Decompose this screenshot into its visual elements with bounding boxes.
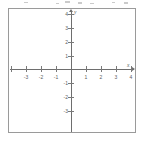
y-tick-label: -2	[60, 94, 68, 100]
y-tick-label: -1	[60, 80, 68, 86]
x-tick-label: 1	[80, 74, 92, 80]
y-tick-label: 3	[60, 25, 68, 31]
x-tick-label: -3	[20, 74, 32, 80]
y-axis-arrow-icon	[69, 9, 73, 12]
y-tick-mark	[68, 56, 74, 57]
y-tick-label: -3	[60, 108, 68, 114]
x-tick-label: 4	[125, 74, 137, 80]
y-axis-line	[71, 12, 72, 132]
x-tick-label: -2	[35, 74, 47, 80]
x-tick-mark	[101, 66, 102, 72]
x-tick-mark	[116, 66, 117, 72]
coordinate-plane-screenshot: -3 -2 -1 1 2 3 4 4 3 2 1 -1 -2 -3 y x	[0, 0, 145, 144]
x-tick-label: 2	[95, 74, 107, 80]
x-tick-label: 3	[110, 74, 122, 80]
x-tick-mark	[11, 66, 12, 72]
y-tick-mark	[68, 28, 74, 29]
y-tick-label: 1	[60, 53, 68, 59]
x-tick-mark	[56, 66, 57, 72]
x-axis-arrow-icon	[132, 67, 135, 71]
x-axis-label: x	[127, 62, 129, 68]
y-axis-label: y	[74, 9, 76, 15]
plot-area: -3 -2 -1 1 2 3 4 4 3 2 1 -1 -2 -3 y x	[0, 0, 145, 144]
y-tick-mark	[68, 83, 74, 84]
x-tick-mark	[41, 66, 42, 72]
y-tick-mark	[68, 97, 74, 98]
y-tick-label: 2	[60, 39, 68, 45]
x-tick-mark	[26, 66, 27, 72]
y-tick-mark	[68, 42, 74, 43]
x-tick-mark	[131, 66, 132, 72]
x-tick-mark	[86, 66, 87, 72]
y-tick-label: 4	[60, 11, 68, 17]
y-tick-mark	[68, 111, 74, 112]
